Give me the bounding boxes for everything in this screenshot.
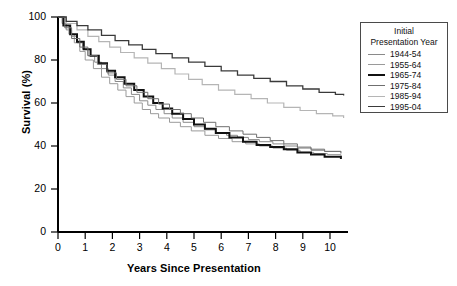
curve-1985-94: [58, 17, 344, 118]
legend-entries: 1944-541955-641965-741975-841985-941995-…: [361, 49, 447, 112]
x-tick-10: 10: [318, 241, 342, 253]
x-tick-0: 0: [46, 241, 70, 253]
legend-label: 1944-54: [390, 49, 421, 60]
legend-item-1995-04: 1995-04: [361, 102, 447, 113]
y-tick-60: 60: [8, 96, 46, 108]
legend-label: 1995-04: [390, 102, 421, 113]
curve-1965-74: [58, 17, 341, 159]
y-tick-20: 20: [8, 182, 46, 194]
legend-label: 1985-94: [390, 91, 421, 102]
x-tick-9: 9: [291, 241, 315, 253]
legend-swatch-icon: [368, 64, 385, 65]
legend-swatch-icon: [368, 85, 385, 86]
chart-axes: [51, 17, 348, 239]
legend-label: 1965-74: [390, 70, 421, 81]
legend-item-1944-54: 1944-54: [361, 49, 447, 60]
legend-swatch-icon: [368, 96, 385, 97]
legend-item-1985-94: 1985-94: [361, 91, 447, 102]
legend-title-line1: Initial: [361, 26, 447, 37]
legend: Initial Presentation Year 1944-541955-64…: [360, 22, 448, 113]
curve-1944-54: [58, 17, 341, 152]
y-tick-0: 0: [8, 225, 46, 237]
x-tick-2: 2: [100, 241, 124, 253]
survival-curves: [58, 17, 344, 159]
legend-title-line2: Presentation Year: [361, 37, 447, 48]
y-tick-40: 40: [8, 139, 46, 151]
legend-item-1955-64: 1955-64: [361, 60, 447, 71]
curve-1995-04: [58, 17, 344, 96]
legend-swatch-icon: [368, 74, 385, 76]
x-tick-8: 8: [264, 241, 288, 253]
y-tick-80: 80: [8, 53, 46, 65]
legend-label: 1955-64: [390, 60, 421, 71]
x-tick-6: 6: [209, 241, 233, 253]
x-tick-7: 7: [236, 241, 260, 253]
x-axis-label: Years Since Presentation: [58, 262, 330, 274]
x-tick-3: 3: [128, 241, 152, 253]
x-tick-5: 5: [182, 241, 206, 253]
legend-item-1965-74: 1965-74: [361, 70, 447, 81]
legend-title: Initial Presentation Year: [361, 23, 447, 47]
legend-swatch-icon: [368, 106, 385, 107]
legend-item-1975-84: 1975-84: [361, 81, 447, 92]
legend-swatch-icon: [368, 54, 385, 55]
x-tick-4: 4: [155, 241, 179, 253]
legend-label: 1975-84: [390, 81, 421, 92]
x-tick-1: 1: [73, 241, 97, 253]
y-tick-100: 100: [8, 10, 46, 22]
